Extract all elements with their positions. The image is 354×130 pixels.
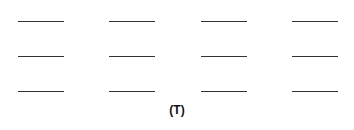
figure-label: (T) bbox=[0, 103, 354, 117]
blank-line-r3-c1 bbox=[18, 91, 64, 92]
blank-line-r2-c3 bbox=[201, 56, 247, 57]
blank-line-r3-c3 bbox=[201, 91, 247, 92]
blank-line-r3-c4 bbox=[292, 91, 338, 92]
blank-line-r2-c2 bbox=[109, 56, 155, 57]
blank-line-r3-c2 bbox=[109, 91, 155, 92]
blank-line-r1-c4 bbox=[292, 21, 338, 22]
blank-line-r2-c1 bbox=[18, 56, 64, 57]
blank-line-r1-c1 bbox=[18, 21, 64, 22]
blank-line-r1-c2 bbox=[109, 21, 155, 22]
blank-line-grid bbox=[0, 0, 354, 110]
blank-line-r2-c4 bbox=[292, 56, 338, 57]
blank-line-r1-c3 bbox=[201, 21, 247, 22]
